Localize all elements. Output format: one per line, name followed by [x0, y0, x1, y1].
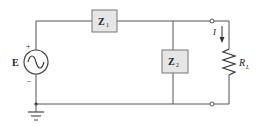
impedance-z1: Z 1: [92, 10, 117, 32]
ground-icon: [28, 104, 44, 120]
current-arrow: I: [212, 26, 225, 43]
z1-label: Z: [98, 16, 105, 27]
load-resistor: R L: [223, 49, 250, 75]
load-label: R: [238, 57, 245, 68]
z1-subscript: 1: [106, 22, 109, 28]
source-minus: –: [26, 76, 32, 85]
z2-label: Z: [168, 56, 175, 67]
terminal-top: [210, 19, 214, 23]
resistor-zigzag-icon: [223, 49, 235, 75]
terminal-bottom: [210, 102, 214, 106]
circuit-diagram: Z 1 Z 2 E + – R L I: [0, 0, 263, 127]
source-label: E: [12, 57, 19, 68]
source-plus: +: [26, 42, 31, 51]
current-label: I: [212, 27, 217, 37]
impedance-z2: Z 2: [162, 50, 188, 73]
ac-voltage-source: E + –: [12, 42, 48, 85]
arrow-down-icon: [220, 37, 225, 43]
load-subscript: L: [245, 64, 250, 70]
wires: [36, 21, 229, 104]
z2-subscript: 2: [176, 62, 179, 68]
